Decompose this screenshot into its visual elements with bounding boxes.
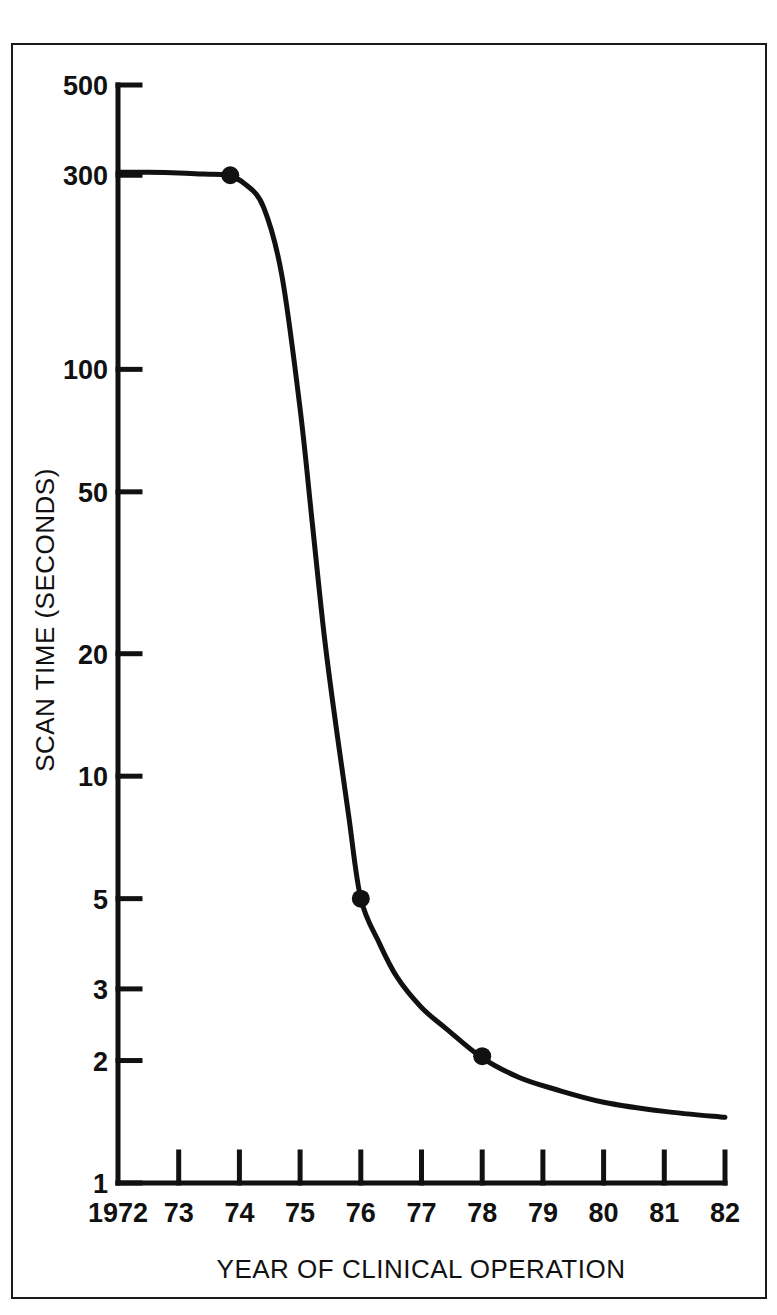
y-axis-title: SCAN TIME (SECONDS) [30,468,60,772]
y-tick-label-50: 50 [78,478,108,508]
y-tick-label-5: 5 [93,885,108,915]
x-tick-label-78: 78 [467,1198,497,1228]
figure-container: 5003001005020105321 19727374757677787980… [0,0,777,1315]
x-tick-label-77: 77 [406,1198,436,1228]
x-tick-label-82: 82 [710,1198,740,1228]
x-tick-label-73: 73 [164,1198,194,1228]
y-tick-label-2: 2 [93,1047,108,1077]
y-tick-label-20: 20 [78,640,108,670]
x-tick-label-81: 81 [649,1198,679,1228]
x-tick-label-76: 76 [346,1198,376,1228]
x-axis-tick-labels: 197273747576777879808182 [88,1198,740,1228]
x-tick-label-75: 75 [285,1198,315,1228]
x-tick-label-79: 79 [528,1198,558,1228]
x-axis-title: YEAR OF CLINICAL OPERATION [217,1254,626,1284]
y-tick-label-1: 1 [93,1169,108,1199]
y-tick-label-3: 3 [93,975,108,1005]
x-tick-label-1972: 1972 [88,1198,148,1228]
data-point-marker-3: 1978, 2 s [473,1047,491,1065]
y-axis-ticks [118,85,140,1183]
scan-time-log-chart: 5003001005020105321 19727374757677787980… [0,0,777,1315]
data-point-marker-1: 1973.9, 300 s [221,166,239,184]
y-axis-tick-labels: 5003001005020105321 [63,71,108,1199]
x-axis-ticks [179,1152,725,1183]
data-point-markers: 1973.9, 300 s1976, 5 s1978, 2 s [221,166,491,1065]
y-tick-label-10: 10 [78,762,108,792]
y-tick-label-100: 100 [63,355,108,385]
y-tick-label-300: 300 [63,161,108,191]
data-point-marker-2: 1976, 5 s [352,890,370,908]
y-tick-label-500: 500 [63,71,108,101]
axes-group [118,85,725,1183]
x-tick-label-80: 80 [589,1198,619,1228]
scan-time-curve [118,172,725,1117]
x-tick-label-74: 74 [224,1198,254,1228]
